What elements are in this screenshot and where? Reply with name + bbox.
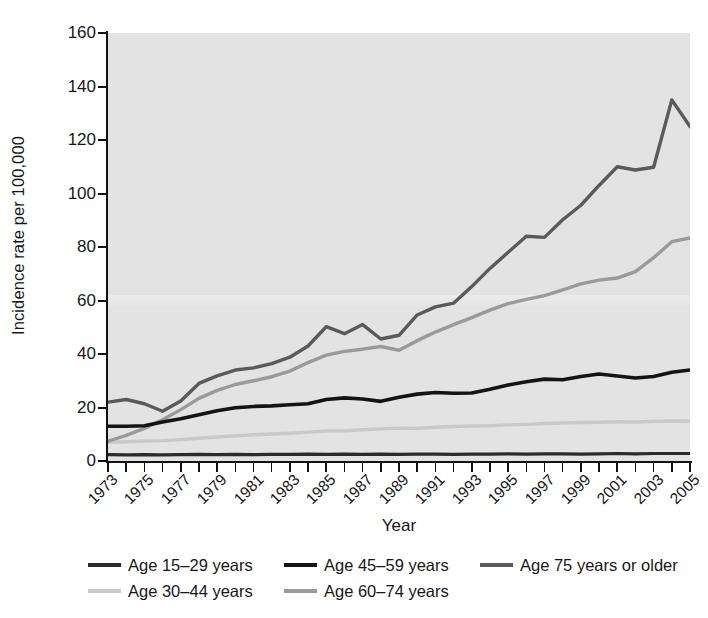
legend-item-label: Age 75 years or older [520, 556, 678, 575]
x-axis-tick-label: 1991 [412, 471, 449, 508]
x-axis-tick-label: 2001 [594, 471, 631, 508]
x-axis-tick [344, 463, 346, 472]
legend-line-swatch [284, 563, 317, 567]
y-axis-tick-labels: 020406080100120140160 [30, 0, 96, 618]
x-axis-tick [635, 463, 637, 472]
x-axis-tick [198, 463, 200, 472]
legend-item: Age 30–44 years [88, 578, 284, 604]
series-line [108, 370, 690, 426]
x-axis-tick [307, 463, 309, 472]
x-axis-tick [489, 463, 491, 472]
y-axis-tick [98, 300, 106, 302]
x-axis-tick-label: 1995 [484, 471, 521, 508]
y-axis-tick [98, 139, 106, 141]
series-line [108, 100, 690, 411]
x-axis-tick [598, 463, 600, 472]
y-axis-tick-label: 20 [36, 398, 96, 418]
y-axis-tick [98, 246, 106, 248]
series-line [108, 454, 690, 455]
x-axis-tick-label: 1987 [339, 471, 376, 508]
legend-item: Age 60–74 years [284, 578, 480, 604]
x-axis-tick-label: 1975 [121, 471, 158, 508]
chart-figure: Incidence rate per 100,000 0204060801001… [0, 0, 708, 618]
y-axis-tick-label: 140 [36, 77, 96, 97]
legend-item: Age 15–29 years [88, 552, 284, 578]
y-axis-tick [98, 353, 106, 355]
legend-item: Age 75 years or older [480, 552, 688, 578]
y-axis-tick-label: 0 [36, 451, 96, 471]
series-lines [108, 33, 690, 461]
x-axis-tick [562, 463, 564, 472]
y-axis-tick [98, 460, 106, 462]
legend-line-swatch [480, 563, 513, 567]
legend-item-label: Age 30–44 years [128, 582, 253, 601]
x-axis-tick-label: 1997 [521, 471, 558, 508]
y-axis-tick [98, 32, 106, 34]
x-axis-tick-label: 2003 [630, 471, 667, 508]
y-axis-tick-label: 100 [36, 184, 96, 204]
series-line [108, 421, 690, 442]
legend-line-swatch [88, 563, 121, 567]
x-axis-tick [235, 463, 237, 472]
legend-line-swatch [284, 589, 317, 593]
legend-item-label: Age 60–74 years [324, 582, 449, 601]
legend-item-label: Age 45–59 years [324, 556, 449, 575]
x-axis-tick-label: 1979 [193, 471, 230, 508]
x-axis-tick-label: 1989 [375, 471, 412, 508]
legend-line-swatch [88, 589, 121, 593]
x-axis-tick-label: 1993 [448, 471, 485, 508]
x-axis-tick [271, 463, 273, 472]
x-axis-tick [453, 463, 455, 472]
series-line [108, 238, 690, 441]
x-axis-tick [671, 463, 673, 472]
x-axis-tick [380, 463, 382, 472]
x-axis-tick [526, 463, 528, 472]
x-axis-title: Year [108, 516, 690, 536]
legend-item-label: Age 15–29 years [128, 556, 253, 575]
y-axis-tick-label: 120 [36, 130, 96, 150]
y-axis-tick-label: 40 [36, 344, 96, 364]
x-axis-tick-label: 2005 [666, 471, 703, 508]
x-axis-tick-label: 1999 [557, 471, 594, 508]
x-axis-tick-label: 1977 [157, 471, 194, 508]
x-axis-tick-label: 1983 [266, 471, 303, 508]
y-axis-title-text: Incidence rate per 100,000 [9, 136, 28, 335]
x-axis-tick [125, 463, 127, 472]
y-axis-tick [98, 193, 106, 195]
chart-legend: Age 15–29 yearsAge 45–59 yearsAge 75 yea… [88, 552, 688, 604]
y-axis-tick-label: 160 [36, 23, 96, 43]
y-axis-tick-label: 80 [36, 237, 96, 257]
y-axis-tick [98, 407, 106, 409]
plot-area [108, 33, 690, 461]
y-axis-tick-label: 60 [36, 291, 96, 311]
legend-item: Age 45–59 years [284, 552, 480, 578]
x-axis-tick-label: 1985 [303, 471, 340, 508]
y-axis-tick [98, 86, 106, 88]
x-axis-tick [162, 463, 164, 472]
x-axis-tick [416, 463, 418, 472]
x-axis-tick-label: 1981 [230, 471, 267, 508]
